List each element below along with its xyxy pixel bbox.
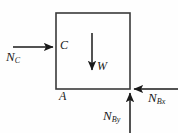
point-label-c: C (60, 39, 68, 51)
force-label-nc-main: N (6, 49, 15, 64)
point-label-a: A (59, 90, 66, 102)
force-label-nbx: NBx (148, 91, 165, 104)
free-body-diagram-figure: NC C W A NBx NBy (0, 0, 178, 133)
force-label-w: W (97, 60, 107, 72)
force-label-nc-sub: C (15, 56, 20, 65)
force-label-nby-main: N (103, 108, 112, 123)
force-label-nby-sub: By (112, 115, 121, 124)
force-label-nc: NC (6, 50, 20, 63)
force-label-w-main: W (97, 59, 107, 73)
diagram-canvas (0, 0, 178, 133)
force-label-nby: NBy (103, 109, 120, 122)
force-label-nbx-main: N (148, 90, 157, 105)
force-label-nbx-sub: Bx (157, 97, 166, 106)
